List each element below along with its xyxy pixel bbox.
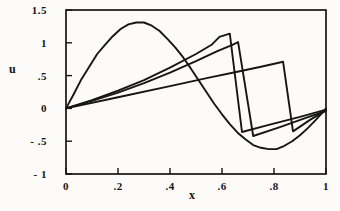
curves-group [66, 23, 326, 150]
x-tick-label: .8 [269, 180, 278, 192]
x-tick-label: 1 [323, 180, 329, 192]
x-tick-label: .6 [217, 180, 226, 192]
y-tick-label: 1.5 [32, 4, 47, 16]
chart-figure: 0.2.4.6.811.51.50- .5- 1 u x [0, 0, 340, 211]
y-tick-label: - 1 [34, 168, 47, 180]
tick-labels-group: 0.2.4.6.811.51.50- .5- 1 [30, 4, 329, 192]
y-tick-label: 0 [41, 102, 47, 114]
x-tick-label: .2 [113, 180, 122, 192]
x-axis-title: x [189, 188, 195, 203]
plot-canvas: 0.2.4.6.811.51.50- .5- 1 [0, 0, 340, 211]
x-tick-label: .4 [165, 180, 174, 192]
y-tick-label: - .5 [30, 135, 47, 147]
y-tick-label: 1 [41, 37, 47, 49]
y-tick-label: .5 [38, 70, 47, 82]
y-axis-title: u [9, 62, 16, 77]
x-tick-label: 0 [63, 180, 69, 192]
